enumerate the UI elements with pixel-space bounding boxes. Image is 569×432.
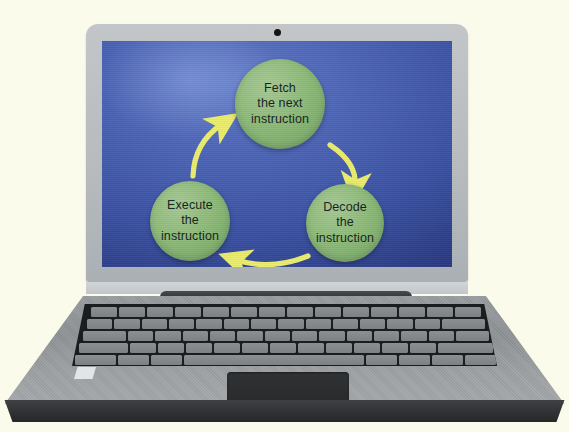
keyboard-row-top[interactable] bbox=[83, 331, 489, 341]
laptop-screen: Fetch the next instruction Decode the in… bbox=[102, 41, 452, 267]
cycle-node-decode-line2: the bbox=[313, 215, 377, 230]
cycle-node-fetch-line2: the next bbox=[248, 96, 312, 111]
keyboard-key[interactable] bbox=[315, 307, 341, 317]
keyboard-key[interactable] bbox=[306, 319, 331, 329]
keyboard-key[interactable] bbox=[287, 307, 313, 317]
keyboard-key[interactable] bbox=[119, 307, 145, 317]
laptop-base bbox=[0, 296, 569, 422]
laptop-lid: Fetch the next instruction Decode the in… bbox=[86, 24, 468, 282]
keyboard-key[interactable] bbox=[326, 343, 352, 353]
cycle-node-decode-line1: Decode bbox=[313, 200, 377, 215]
keyboard-key[interactable] bbox=[360, 319, 385, 329]
keyboard-key[interactable] bbox=[186, 343, 212, 353]
keyboard-key[interactable] bbox=[371, 307, 397, 317]
keyboard-key[interactable] bbox=[169, 319, 194, 329]
keyboard-key[interactable] bbox=[224, 319, 249, 329]
keyboard-key[interactable] bbox=[333, 319, 358, 329]
keyboard-key[interactable] bbox=[387, 319, 412, 329]
keyboard-key[interactable] bbox=[210, 331, 235, 341]
cycle-node-fetch: Fetch the next instruction bbox=[235, 59, 325, 149]
keyboard-key[interactable] bbox=[242, 343, 268, 353]
cycle-node-fetch-line1: Fetch bbox=[248, 81, 312, 96]
keyboard-key[interactable] bbox=[465, 355, 496, 365]
keyboard-row-home[interactable] bbox=[79, 343, 493, 353]
keyboard-key[interactable] bbox=[432, 355, 463, 365]
keyboard-key[interactable] bbox=[155, 331, 180, 341]
keyboard-key[interactable] bbox=[438, 343, 493, 353]
keyboard-key[interactable] bbox=[87, 319, 112, 329]
arrow-execute-to-fetch bbox=[193, 124, 222, 176]
keyboard-key[interactable] bbox=[183, 331, 208, 341]
keyboard-key[interactable] bbox=[231, 307, 257, 317]
keyboard-key[interactable] bbox=[427, 307, 453, 317]
keyboard-key[interactable] bbox=[278, 319, 303, 329]
keyboard-key[interactable] bbox=[151, 355, 182, 365]
keyboard-key[interactable] bbox=[114, 319, 139, 329]
keyboard-key[interactable] bbox=[354, 343, 380, 353]
laptop-front-edge bbox=[0, 400, 569, 422]
webcam-icon bbox=[274, 29, 281, 36]
keyboard-key[interactable] bbox=[79, 343, 128, 353]
cycle-node-fetch-line3: instruction bbox=[248, 112, 312, 127]
keyboard-key[interactable] bbox=[399, 355, 430, 365]
keyboard-key[interactable] bbox=[366, 355, 397, 365]
keyboard-key[interactable] bbox=[442, 319, 485, 329]
keyboard-key[interactable] bbox=[382, 343, 408, 353]
keyboard-key[interactable] bbox=[401, 331, 426, 341]
keyboard-key[interactable] bbox=[319, 331, 344, 341]
keyboard-key[interactable] bbox=[410, 343, 436, 353]
keyboard-key[interactable] bbox=[75, 355, 116, 365]
keyboard-key[interactable] bbox=[237, 331, 262, 341]
keyboard-key[interactable] bbox=[214, 343, 240, 353]
laptop-keyboard[interactable] bbox=[72, 304, 497, 366]
keyboard-key[interactable] bbox=[142, 319, 167, 329]
keyboard-key[interactable] bbox=[130, 343, 156, 353]
badge-sticker bbox=[74, 367, 96, 379]
keyboard-key[interactable] bbox=[343, 307, 369, 317]
keyboard-row-function[interactable] bbox=[91, 307, 481, 317]
keyboard-key[interactable] bbox=[175, 307, 201, 317]
screen-bezel-top bbox=[86, 24, 468, 40]
keyboard-key[interactable] bbox=[265, 331, 290, 341]
keyboard-key[interactable] bbox=[128, 331, 153, 341]
keyboard-key[interactable] bbox=[83, 331, 126, 341]
keyboard-key[interactable] bbox=[158, 343, 184, 353]
keyboard-row-bottom[interactable] bbox=[75, 355, 496, 365]
keyboard-key[interactable] bbox=[298, 343, 324, 353]
cycle-node-execute-line2: the bbox=[158, 213, 222, 228]
keyboard-key[interactable] bbox=[196, 319, 221, 329]
keyboard-key[interactable] bbox=[429, 331, 454, 341]
keyboard-key[interactable] bbox=[415, 319, 440, 329]
cycle-node-execute: Execute the instruction bbox=[150, 181, 230, 261]
keyboard-key[interactable] bbox=[292, 331, 317, 341]
cycle-node-decode: Decode the instruction bbox=[306, 184, 384, 262]
keyboard-key[interactable] bbox=[456, 331, 489, 341]
keyboard-key[interactable] bbox=[147, 307, 173, 317]
keyboard-key[interactable] bbox=[374, 331, 399, 341]
keyboard-key[interactable] bbox=[118, 355, 149, 365]
keyboard-key[interactable] bbox=[399, 307, 425, 317]
cycle-node-execute-line1: Execute bbox=[158, 198, 222, 213]
keyboard-key[interactable] bbox=[203, 307, 229, 317]
keyboard-key[interactable] bbox=[259, 307, 285, 317]
cycle-node-execute-line3: instruction bbox=[158, 229, 222, 244]
arrow-decode-to-execute bbox=[237, 256, 308, 265]
keyboard-key[interactable] bbox=[270, 343, 296, 353]
keyboard-key[interactable] bbox=[184, 355, 364, 365]
keyboard-key[interactable] bbox=[347, 331, 372, 341]
keyboard-key[interactable] bbox=[251, 319, 276, 329]
keyboard-row-number[interactable] bbox=[87, 319, 485, 329]
keyboard-key[interactable] bbox=[455, 307, 481, 317]
keyboard-key[interactable] bbox=[91, 307, 117, 317]
cycle-node-decode-line3: instruction bbox=[313, 231, 377, 246]
arrow-fetch-to-decode bbox=[330, 145, 355, 185]
laptop-illustration: Fetch the next instruction Decode the in… bbox=[0, 0, 569, 432]
